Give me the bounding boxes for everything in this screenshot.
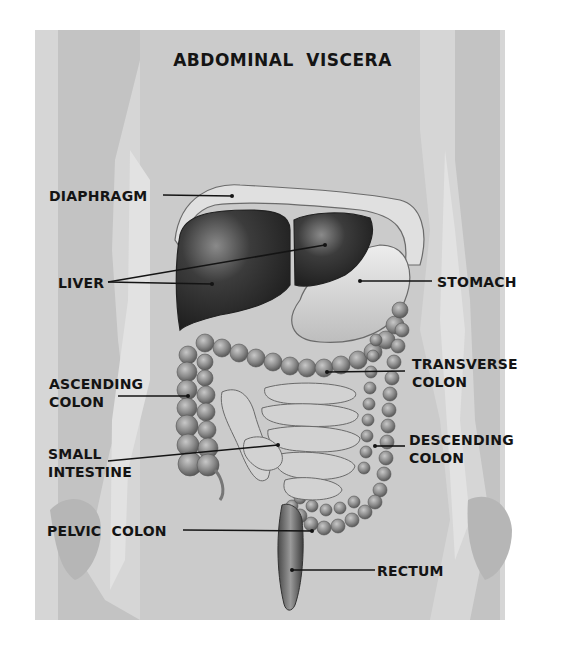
- label-diaphragm: DIAPHRAGM: [49, 187, 147, 205]
- label-ascending-colon-line1: ASCENDING: [49, 375, 143, 393]
- right-hand: [468, 497, 512, 580]
- label-small-intestine-line2: INTESTINE: [48, 463, 132, 481]
- anatomy-illustration: [0, 0, 565, 653]
- label-stomach: STOMACH: [437, 273, 517, 291]
- diagram-title: ABDOMINAL VISCERA: [0, 50, 565, 70]
- label-transverse-colon-line1: TRANSVERSE: [412, 355, 518, 373]
- label-small-intestine-line1: SMALL: [48, 445, 102, 463]
- label-transverse-colon-line2: COLON: [412, 373, 467, 391]
- label-rectum: RECTUM: [377, 562, 444, 580]
- label-ascending-colon-line2: COLON: [49, 393, 104, 411]
- label-descending-colon-line1: DESCENDING: [409, 431, 514, 449]
- label-descending-colon-line2: COLON: [409, 449, 464, 467]
- label-pelvic-colon: PELVIC COLON: [47, 522, 167, 540]
- label-liver: LIVER: [58, 274, 104, 292]
